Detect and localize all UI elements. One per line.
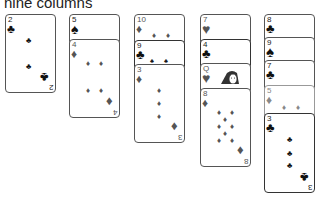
card-3-diamonds[interactable]: 3 ♦ ♦ ♦ ♦ ♦ 3 bbox=[134, 64, 185, 143]
diamond-icon: ♦ bbox=[217, 109, 221, 117]
club-icon: ♣ bbox=[202, 48, 211, 60]
diamond-icon: ♦ bbox=[136, 73, 142, 85]
diamond-icon: ♦ bbox=[282, 104, 286, 112]
diamond-icon: ♦ bbox=[157, 100, 161, 108]
diamond-icon: ♦ bbox=[296, 104, 300, 112]
caption-text: nine columns bbox=[4, 0, 92, 11]
card-rank-bottom: 8 bbox=[244, 157, 248, 165]
card-3-clubs[interactable]: 3 ♣ ♣ ♣ ♣ ♣ 3 bbox=[264, 113, 315, 193]
club-icon: ♣ bbox=[266, 23, 275, 35]
club-icon: ♣ bbox=[26, 37, 31, 45]
diamond-icon: ♦ bbox=[230, 109, 234, 117]
heart-icon: ♥ bbox=[202, 23, 210, 35]
club-icon: ♣ bbox=[40, 71, 49, 84]
club-icon: ♣ bbox=[287, 162, 292, 170]
card-4-diamonds[interactable]: 4 ♦ ♦ ♦ ♦ ♦ ♦ 4 bbox=[69, 39, 120, 118]
club-icon: ♣ bbox=[287, 150, 292, 158]
diamond-icon: ♦ bbox=[217, 123, 221, 131]
card-8-diamonds[interactable]: 8 ♦ ♦ ♦ ♦ ♦ ♦ ♦ ♦ ♦ ♦ 8 bbox=[200, 88, 251, 167]
diamond-icon: ♦ bbox=[217, 137, 221, 145]
queen-face-icon bbox=[219, 70, 241, 84]
club-icon: ♣ bbox=[7, 23, 15, 35]
diamond-icon: ♦ bbox=[230, 123, 234, 131]
diamond-icon: ♦ bbox=[157, 87, 161, 95]
diamond-icon: ♦ bbox=[266, 94, 272, 106]
diamond-icon: ♦ bbox=[223, 116, 227, 124]
spade-icon: ♠ bbox=[266, 46, 274, 58]
diamond-icon: ♦ bbox=[86, 87, 90, 95]
club-icon: ♣ bbox=[26, 63, 31, 71]
card-rank-bottom: 3 bbox=[308, 183, 312, 191]
diamond-icon: ♦ bbox=[152, 32, 156, 40]
diamond-icon: ♦ bbox=[99, 60, 103, 68]
diamond-icon: ♦ bbox=[136, 23, 142, 35]
diamond-icon: ♦ bbox=[223, 130, 227, 138]
club-icon: ♣ bbox=[266, 122, 275, 134]
card-rank-bottom: 3 bbox=[178, 133, 182, 141]
club-icon: ♣ bbox=[266, 69, 275, 81]
diamond-icon: ♦ bbox=[202, 97, 208, 109]
card-rank-bottom: 4 bbox=[113, 108, 117, 116]
diamond-icon: ♦ bbox=[71, 48, 77, 60]
diamond-icon: ♦ bbox=[106, 94, 113, 107]
spade-icon: ♠ bbox=[71, 23, 78, 35]
heart-icon: ♥ bbox=[202, 72, 210, 84]
card-2-clubs[interactable]: 2 ♣ ♣ ♣ ♣ 2 bbox=[5, 14, 56, 93]
diamond-icon: ♦ bbox=[86, 60, 90, 68]
diamond-icon: ♦ bbox=[237, 143, 244, 156]
club-icon: ♣ bbox=[136, 49, 145, 61]
diamond-icon: ♦ bbox=[171, 119, 178, 132]
diamond-icon: ♦ bbox=[166, 32, 170, 40]
diamond-icon: ♦ bbox=[99, 87, 103, 95]
card-rank-bottom: 2 bbox=[49, 83, 53, 91]
diamond-icon: ♦ bbox=[157, 113, 161, 121]
club-icon: ♣ bbox=[287, 136, 292, 144]
diamond-icon: ♦ bbox=[230, 137, 234, 145]
